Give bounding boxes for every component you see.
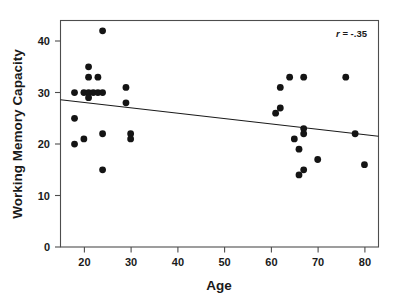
data-point bbox=[361, 161, 368, 168]
data-point bbox=[291, 136, 298, 143]
x-tick-label: 70 bbox=[312, 256, 324, 268]
data-point bbox=[71, 115, 78, 122]
data-point bbox=[286, 74, 293, 81]
regression-line bbox=[61, 100, 379, 137]
x-tick-label: 30 bbox=[125, 256, 137, 268]
y-tick-label: 30 bbox=[38, 87, 50, 99]
data-point bbox=[71, 141, 78, 148]
x-axis-ticks bbox=[84, 247, 365, 253]
data-point bbox=[342, 74, 349, 81]
data-point bbox=[277, 84, 284, 91]
data-point bbox=[300, 166, 307, 173]
data-point bbox=[95, 74, 102, 81]
data-point bbox=[123, 84, 130, 91]
x-tick-label: 80 bbox=[359, 256, 371, 268]
data-point bbox=[99, 27, 106, 34]
scatter-plot-figure: 0 10 20 30 40 20 30 40 50 60 70 80 Age W… bbox=[0, 0, 397, 304]
plot-canvas: 0 10 20 30 40 20 30 40 50 60 70 80 Age W… bbox=[0, 0, 397, 304]
x-tick-label: 40 bbox=[172, 256, 184, 268]
data-point bbox=[352, 130, 359, 137]
y-tick-label: 10 bbox=[38, 190, 50, 202]
x-tick-label: 50 bbox=[218, 256, 230, 268]
data-point bbox=[85, 94, 92, 101]
data-point bbox=[300, 130, 307, 137]
data-point bbox=[99, 166, 106, 173]
correlation-annotation: r = -.35 bbox=[336, 28, 368, 39]
data-point bbox=[296, 146, 303, 153]
plot-frame bbox=[61, 21, 379, 248]
data-point bbox=[85, 74, 92, 81]
data-point bbox=[99, 89, 106, 96]
data-point bbox=[272, 110, 279, 117]
data-point bbox=[314, 156, 321, 163]
data-point bbox=[300, 74, 307, 81]
data-point bbox=[85, 63, 92, 70]
y-tick-label: 20 bbox=[38, 138, 50, 150]
data-point bbox=[71, 89, 78, 96]
x-tick-labels: 20 30 40 50 60 70 80 bbox=[78, 256, 371, 268]
correlation-value: = -.35 bbox=[340, 28, 368, 39]
x-axis-title: Age bbox=[206, 278, 232, 293]
data-point bbox=[80, 136, 87, 143]
data-point bbox=[127, 136, 134, 143]
y-tick-label: 0 bbox=[44, 241, 50, 253]
data-point bbox=[277, 105, 284, 112]
x-tick-label: 60 bbox=[265, 256, 277, 268]
y-axis-title: Working Memory Capacity bbox=[10, 49, 25, 219]
data-point bbox=[296, 172, 303, 179]
y-tick-label: 40 bbox=[38, 35, 50, 47]
data-point bbox=[99, 130, 106, 137]
x-tick-label: 20 bbox=[78, 256, 90, 268]
data-points-group bbox=[71, 27, 368, 178]
y-tick-labels: 0 10 20 30 40 bbox=[38, 35, 50, 253]
data-point bbox=[123, 99, 130, 106]
y-axis-ticks bbox=[55, 41, 61, 247]
